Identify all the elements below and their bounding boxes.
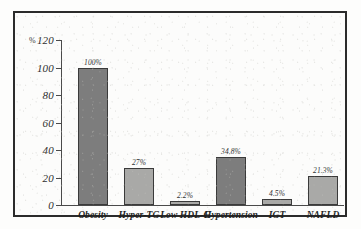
bar-value-obesity: 100%: [84, 58, 102, 67]
y-tick-label-20: 20: [43, 172, 54, 184]
category-label-igt: IGT: [269, 210, 286, 220]
bar-group-obesity: 100% Obesity: [71, 40, 115, 205]
plot-area: %120 100 80 60 40 20: [61, 40, 344, 205]
category-label-hypertension: Hypertension: [204, 210, 258, 220]
category-label-nafld: NAFLD: [307, 210, 340, 220]
x-axis-line: [61, 205, 344, 206]
bar-hyper-tg[interactable]: 27%: [124, 168, 154, 205]
category-label-hyper-tg: Hyper-TG: [119, 210, 160, 220]
bar-group-nafld: 21.3% NAFLD: [301, 40, 345, 205]
bar-nafld[interactable]: 21.3%: [308, 176, 338, 205]
y-tick-label-40: 40: [43, 144, 54, 156]
bar-group-igt: 4.5% IGT: [255, 40, 299, 205]
y-tick-label-60: 60: [43, 117, 54, 129]
y-tick-label-0: 0: [48, 199, 54, 211]
y-tick-label-80: 80: [43, 89, 54, 101]
bar-value-hypertension: 34.8%: [221, 147, 241, 156]
y-tick-label-120: %120: [29, 34, 54, 46]
y-tick-label-100: 100: [37, 62, 54, 74]
bar-value-nafld: 21.3%: [313, 166, 333, 175]
bar-group-hypertension: 34.8% Hypertension: [209, 40, 253, 205]
bar-low-hdl-c[interactable]: 2.2%: [170, 201, 200, 206]
chart-frame: %120 100 80 60 40 20: [13, 11, 347, 217]
bar-value-hyper-tg: 27%: [132, 158, 146, 167]
category-label-obesity: Obesity: [78, 210, 108, 220]
figure-canvas: %120 100 80 60 40 20: [0, 0, 361, 229]
bar-igt[interactable]: 4.5%: [262, 199, 292, 205]
y-axis-line: [61, 40, 62, 205]
bar-group-low-hdl-c: 2.2% Low HDL-C: [163, 40, 207, 205]
bar-group-hyper-tg: 27% Hyper-TG: [117, 40, 161, 205]
bar-obesity[interactable]: 100%: [78, 68, 108, 206]
bar-value-low-hdl-c: 2.2%: [177, 191, 193, 200]
category-label-low-hdl-c: Low HDL-C: [160, 210, 210, 220]
bar-value-igt: 4.5%: [269, 189, 285, 198]
bar-hypertension[interactable]: 34.8%: [216, 157, 246, 205]
percent-symbol: %: [29, 36, 36, 45]
